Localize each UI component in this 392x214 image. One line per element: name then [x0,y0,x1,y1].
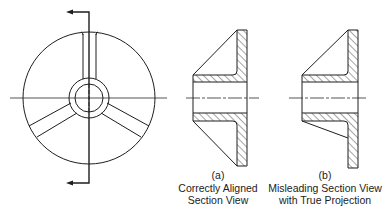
caption-a-letter: (a) [168,169,268,182]
caption-b-line1: Misleading Section View [264,182,386,195]
arrow-left-icon [66,181,73,186]
rib-lower-left [29,103,77,137]
arrow-left-icon [66,10,73,15]
caption-b-letter: (b) [264,169,386,182]
caption-view-b: (b) Misleading Section View with True Pr… [264,169,386,207]
front-view [10,10,167,186]
caption-b-line2: with True Projection [264,194,386,207]
caption-a-line2: Section View [168,194,268,207]
caption-a-line1: Correctly Aligned [168,182,268,195]
rib-lower-right [101,103,149,137]
section-view-a [186,30,259,166]
caption-view-a: (a) Correctly Aligned Section View [168,169,268,207]
section-view-b [289,30,368,168]
technical-drawing: (a) Correctly Aligned Section View (b) M… [0,0,392,214]
